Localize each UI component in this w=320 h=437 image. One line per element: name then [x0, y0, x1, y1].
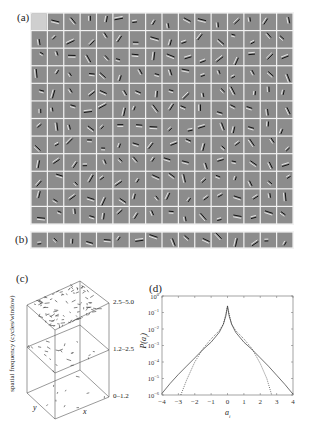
x-tick-label: −4: [158, 398, 166, 406]
x-tick-label: 0: [226, 398, 230, 406]
basis-function-cell: [212, 137, 227, 153]
basis-function-cell: [212, 14, 227, 30]
basis-function-cell: [277, 84, 292, 100]
basis-function-cell: [130, 31, 145, 47]
basis-function-cell: [48, 207, 63, 223]
basis-function-row-b: [30, 231, 294, 249]
basis-function-cell: [195, 31, 210, 47]
basis-function-cell: [261, 102, 276, 118]
basis-function-cell: [113, 207, 128, 223]
d-ylabel: P(ai): [140, 333, 150, 349]
basis-function-cell: [244, 207, 259, 223]
basis-function-cell: [48, 66, 63, 82]
basis-function-cell: [146, 154, 161, 170]
basis-function-cell: [195, 84, 210, 100]
basis-function-cell: [163, 14, 178, 30]
basis-function-cell: [48, 31, 63, 47]
basis-function-cell: [228, 119, 243, 135]
basis-function-cell: [277, 154, 292, 170]
basis-function-cell: [32, 119, 47, 135]
basis-function-cell: [277, 31, 292, 47]
basis-function-cell: [146, 14, 161, 30]
basis-function-cell: [244, 102, 259, 118]
basis-function-cell: [130, 14, 145, 30]
y-tick-label: 10−4: [148, 358, 160, 366]
x-tick-label: 3: [275, 398, 279, 406]
basis-function-cell: [228, 49, 243, 65]
basis-function-cell: [81, 233, 96, 248]
basis-function-cell: [64, 207, 79, 223]
basis-function-cell: [277, 189, 292, 205]
basis-function-cell: [130, 49, 145, 65]
basis-function-cell: [32, 66, 47, 82]
basis-function-cell: [179, 49, 194, 65]
basis-function-cell: [228, 14, 243, 30]
basis-function-cell: [228, 189, 243, 205]
basis-function-cell: [195, 49, 210, 65]
basis-function-cell: [212, 154, 227, 170]
basis-function-cell: [261, 233, 276, 248]
basis-function-cell: [113, 189, 128, 205]
basis-function-cell: [244, 31, 259, 47]
basis-function-cell: [277, 172, 292, 188]
basis-function-cell: [81, 207, 96, 223]
basis-function-cell: [212, 102, 227, 118]
basis-function-cell: [64, 66, 79, 82]
frequency-band-box-c: [27, 281, 109, 419]
basis-function-cell: [179, 84, 194, 100]
basis-function-cell: [64, 119, 79, 135]
basis-function-cell: [179, 14, 194, 30]
x-tick-label: 4: [291, 398, 295, 406]
basis-function-cell: [195, 102, 210, 118]
basis-function-cell: [228, 66, 243, 82]
basis-function-cell: [212, 233, 227, 248]
basis-function-cell: [113, 119, 128, 135]
basis-function-cell: [195, 189, 210, 205]
basis-function-cell: [97, 172, 112, 188]
basis-function-cell: [228, 84, 243, 100]
basis-function-cell: [113, 14, 128, 30]
basis-function-cell: [32, 207, 47, 223]
basis-function-cell: [163, 137, 178, 153]
frequency-plane: [27, 281, 109, 330]
basis-function-cell: [113, 137, 128, 153]
x-tick-label: 1: [242, 398, 246, 406]
basis-function-cell: [97, 102, 112, 118]
basis-function-cell: [228, 154, 243, 170]
basis-function-grid-a: [30, 12, 294, 225]
basis-function-cell: [212, 31, 227, 47]
basis-function-cell: [261, 172, 276, 188]
basis-function-cell: [179, 119, 194, 135]
frequency-plane: [27, 325, 109, 373]
basis-function-cell: [48, 14, 63, 30]
basis-function-cell: [146, 102, 161, 118]
basis-function-cell: [81, 66, 96, 82]
basis-function-cell: [277, 14, 292, 30]
basis-function-cell: [97, 189, 112, 205]
basis-function-cell: [261, 207, 276, 223]
basis-function-cell: [113, 66, 128, 82]
basis-function-cell: [113, 233, 128, 248]
basis-function-cell: [64, 233, 79, 248]
basis-function-cell: [81, 154, 96, 170]
basis-function-cell: [130, 172, 145, 188]
basis-function-cell: [48, 137, 63, 153]
basis-function-cell: [64, 172, 79, 188]
basis-function-cell: [113, 102, 128, 118]
basis-function-cell: [48, 172, 63, 188]
basis-function-cell: [32, 137, 47, 153]
basis-function-cell: [244, 14, 259, 30]
basis-function-cell: [244, 49, 259, 65]
x-tick-label: −3: [175, 398, 183, 406]
basis-function-cell: [130, 154, 145, 170]
y-tick-label: 100: [150, 292, 160, 300]
band-label-high: 2.5–5.0: [113, 299, 134, 306]
basis-function-cell: [130, 207, 145, 223]
basis-function-cell: [277, 207, 292, 223]
basis-function-cell: [146, 172, 161, 188]
distribution-plot-d: −4−3−2−10123410010−110−210−310−410−510−6: [148, 292, 296, 407]
axis-label-y: y: [33, 404, 37, 412]
fitted-curve: [181, 307, 272, 395]
y-tick-label: 10−2: [148, 325, 159, 333]
basis-function-cell: [179, 31, 194, 47]
